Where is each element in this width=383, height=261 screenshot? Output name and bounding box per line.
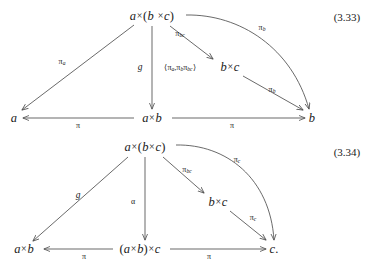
- edge-label-pi-left: π: [76, 122, 80, 130]
- commutative-diagram-3-33: a×(b ×c) b×c a a×b b πa g ⟨πa,πbπbc⟩ πbc…: [0, 0, 383, 130]
- node-b-times-c: b×c: [220, 61, 239, 74]
- node-a-times-b-times-c: a×(b ×c): [130, 10, 174, 23]
- edge-label-alpha: α: [131, 198, 135, 206]
- node-a-times-b-paren-times-c: (a×b)×c: [119, 243, 160, 256]
- node-a-times-b: a×b: [14, 243, 34, 256]
- arrow-pi-bc: [163, 157, 204, 193]
- equation-number-3-33: (3.33): [334, 11, 361, 23]
- edge-label-pi-c-diag: πc: [250, 214, 257, 223]
- edge-label-pi-bc: πbc: [182, 166, 191, 175]
- arrow-pi-c-diag: [230, 211, 266, 240]
- edge-label-pi-left: π: [82, 253, 86, 261]
- edge-label-pi-a: πa: [59, 58, 66, 67]
- diagram-2-arrows: [0, 130, 383, 261]
- edge-label-pi-right: π: [207, 253, 211, 261]
- equation-number-3-34: (3.34): [334, 146, 361, 158]
- node-a-times-b-times-c: a×(b×c): [124, 141, 165, 154]
- edge-label-g: g: [76, 191, 81, 201]
- edge-label-pi-bc: πbc: [175, 30, 184, 39]
- edge-label-g: g: [138, 63, 143, 73]
- commutative-diagram-3-34: a×(b×c) b×c a×b (a×b)×c c. g α πbc πc πc…: [0, 130, 383, 261]
- arrow-pi-a: [22, 25, 134, 110]
- edge-label-pi-b-diag: πb: [269, 86, 276, 95]
- arrow-pi-b-curve: [186, 15, 309, 109]
- node-a: a: [11, 112, 17, 125]
- node-b-times-c: b×c: [208, 196, 227, 209]
- arrow-pi-c-curve: [176, 145, 274, 240]
- edge-label-pi-b-curve: πb: [259, 24, 266, 33]
- node-b: b: [309, 112, 315, 125]
- node-c: c.: [269, 243, 278, 256]
- edge-label-pi-right: π: [230, 122, 234, 130]
- page: a×(b ×c) b×c a a×b b πa g ⟨πa,πbπbc⟩ πbc…: [0, 0, 383, 261]
- edge-label-tuple: ⟨πa,πbπbc⟩: [164, 64, 195, 73]
- edge-label-pi-c-curve: πc: [234, 156, 241, 165]
- node-a-times-b: a×b: [142, 112, 162, 125]
